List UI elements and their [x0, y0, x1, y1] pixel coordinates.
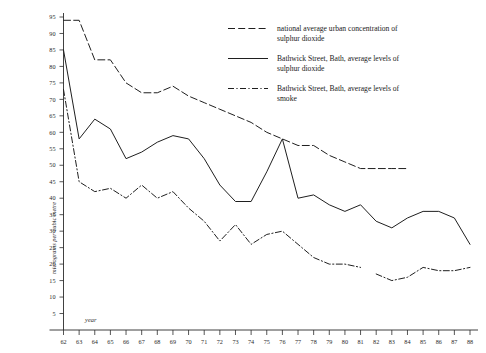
x-tick-label: 83: [389, 338, 395, 345]
x-tick-label: 87: [451, 338, 457, 345]
x-tick-label: 74: [248, 338, 254, 345]
series-line-bathwick-smoke: [64, 89, 361, 267]
y-axis-caption: micrograms per cubic metre: [50, 202, 57, 274]
x-tick-label: 67: [139, 338, 145, 345]
y-tick-label: 85: [49, 46, 55, 53]
x-tick-label: 82: [373, 338, 379, 345]
y-tick-label: 15: [49, 277, 55, 284]
series-line-bathwick-sulphur-dioxide: [64, 50, 471, 244]
y-tick-label: 95: [49, 13, 55, 20]
x-tick-label: 86: [436, 338, 442, 345]
legend-label-so2-line2: sulphur dioxide: [277, 64, 325, 73]
legend-label-national-line2: sulphur dioxide: [277, 34, 325, 43]
y-tick-label: 55: [49, 145, 55, 152]
y-tick-label: 70: [49, 96, 55, 103]
x-tick-label: 66: [123, 338, 129, 345]
x-tick-label: 76: [279, 338, 285, 345]
x-tick-label: 79: [326, 338, 332, 345]
y-tick-label: 10: [49, 293, 55, 300]
x-tick-label: 77: [295, 338, 301, 345]
x-tick-label: 81: [357, 338, 363, 345]
x-tick-label: 75: [264, 338, 270, 345]
x-tick-label: 80: [342, 338, 348, 345]
x-tick-label: 69: [170, 338, 176, 345]
y-tick-label: 90: [49, 30, 55, 37]
x-tick-label: 73: [232, 338, 238, 345]
y-tick-label: 60: [49, 129, 55, 136]
x-tick-label: 64: [92, 338, 98, 345]
legend: national average urban concentration of …: [228, 24, 400, 103]
legend-item-sulphur-dioxide: Bathwick Street, Bath, average levels of…: [228, 54, 400, 73]
chart-container: 5101520253035404550556065707580859095 62…: [0, 0, 486, 353]
x-tick-label: 84: [404, 338, 410, 345]
x-tick-label: 71: [201, 338, 207, 345]
legend-item-national: national average urban concentration of …: [228, 24, 398, 43]
x-axis-caption: year: [84, 316, 97, 323]
y-tick-label: 80: [49, 63, 55, 70]
x-tick-label: 70: [185, 338, 191, 345]
x-tick-label: 68: [154, 338, 160, 345]
series-line-national-average: [64, 20, 408, 168]
series-line-bathwick-smoke-continued: [376, 267, 470, 280]
x-tick-label: 72: [217, 338, 223, 345]
x-tick-label: 85: [420, 338, 426, 345]
y-tick-label: 65: [49, 112, 55, 119]
y-tick-label: 45: [49, 178, 55, 185]
data-series-group: [64, 20, 471, 280]
y-tick-label: 5: [52, 310, 55, 317]
legend-label-smoke-line2: smoke: [277, 94, 297, 103]
x-tick-label: 88: [467, 338, 473, 345]
x-tick-label: 78: [311, 338, 317, 345]
y-tick-label: 50: [49, 161, 55, 168]
legend-label-so2-line1: Bathwick Street, Bath, average levels of: [277, 54, 400, 63]
x-tick-label: 62: [60, 338, 66, 345]
air-quality-line-chart: 5101520253035404550556065707580859095 62…: [0, 0, 486, 353]
legend-label-smoke-line1: Bathwick Street, Bath, average levels of: [277, 84, 400, 93]
legend-item-smoke: Bathwick Street, Bath, average levels of…: [228, 84, 400, 103]
y-tick-label: 40: [49, 194, 55, 201]
legend-label-national-line1: national average urban concentration of: [277, 24, 398, 33]
x-axis-ticks: 6263646566676869707172737475767778798081…: [60, 330, 473, 345]
x-tick-label: 63: [76, 338, 82, 345]
x-tick-label: 65: [107, 338, 113, 345]
y-tick-label: 75: [49, 79, 55, 86]
